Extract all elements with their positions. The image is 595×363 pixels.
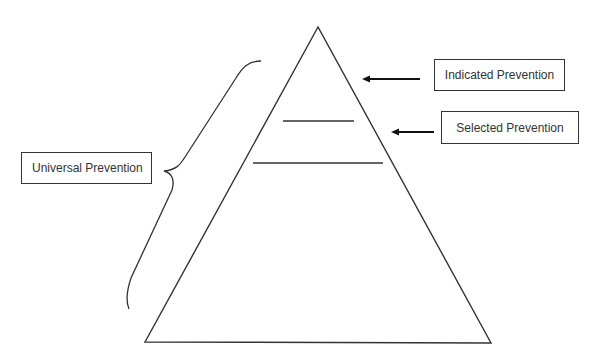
selected-prevention-label: Selected Prevention	[456, 121, 563, 135]
universal-prevention-box: Universal Prevention	[21, 152, 152, 184]
indicated-prevention-label: Indicated Prevention	[445, 68, 554, 82]
arrow-selected	[391, 129, 434, 136]
curly-brace	[127, 61, 261, 309]
indicated-prevention-box: Indicated Prevention	[434, 59, 565, 91]
universal-prevention-label: Universal Prevention	[32, 161, 143, 175]
arrow-indicated	[362, 76, 420, 83]
selected-prevention-box: Selected Prevention	[441, 111, 579, 144]
